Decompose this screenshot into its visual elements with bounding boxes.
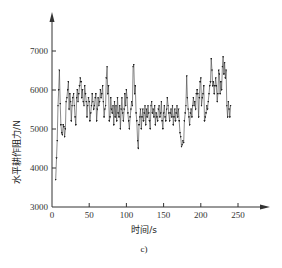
y-axis-arrow-icon xyxy=(50,12,55,22)
figure-caption: c) xyxy=(141,244,148,254)
y-tick-label: 6000 xyxy=(30,85,49,95)
x-tick-label: 250 xyxy=(231,210,245,220)
x-axis-arrow-icon xyxy=(260,205,270,210)
line-chart: 050100150200250 30004000500060007000 水平耕… xyxy=(0,0,282,268)
series-line xyxy=(56,57,231,180)
x-tick-label: 150 xyxy=(157,210,171,220)
x-tick-label: 50 xyxy=(85,210,95,220)
y-axis-title: 水平耕作阻力/N xyxy=(11,120,22,184)
y-tick-label: 4000 xyxy=(30,163,49,173)
y-tick-label: 5000 xyxy=(30,124,49,134)
x-tick-label: 200 xyxy=(194,210,208,220)
x-axis-title: 时间/s xyxy=(131,224,157,235)
data-series xyxy=(56,57,231,180)
y-tick-label: 3000 xyxy=(30,202,49,212)
x-ticks: 050100150200250 xyxy=(50,203,246,220)
x-tick-label: 0 xyxy=(50,210,55,220)
x-tick-label: 100 xyxy=(120,210,134,220)
y-tick-label: 7000 xyxy=(30,46,49,56)
